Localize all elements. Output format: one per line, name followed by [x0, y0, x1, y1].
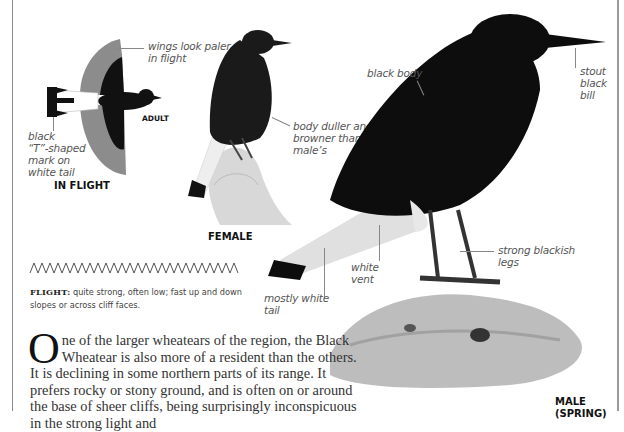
caption-male: MALE (SPRING) [555, 396, 607, 420]
description-text: ne of the larger wheatears of the region… [30, 332, 357, 431]
label-strong-legs: strong blackish legs [498, 244, 575, 268]
label-black-body: black body [367, 67, 422, 79]
leader-line-bill [575, 48, 576, 68]
label-t-shaped-mark: black “T”-shaped mark on white tail [28, 130, 85, 178]
leader-line-wings [116, 48, 144, 49]
page-left-border [12, 0, 13, 411]
caption-in-flight: IN FLIGHT [54, 180, 110, 191]
flight-pattern-zigzag-icon [30, 262, 240, 274]
caption-female: FEMALE [208, 231, 253, 242]
leader-line-tail-t [53, 117, 54, 131]
leader-line-tail [324, 248, 325, 298]
label-stout-black-bill: stout black bill [580, 65, 607, 101]
leader-line-vent [379, 225, 380, 261]
flight-description: FLIGHT: quite strong, often low; fast up… [30, 286, 260, 312]
label-white-vent: white vent [351, 261, 379, 285]
caption-adult: ADULT [142, 114, 169, 123]
flight-heading: FLIGHT: [30, 287, 70, 297]
label-mostly-white-tail: mostly white tail [264, 292, 329, 316]
species-description: One of the larger wheatears of the regio… [30, 332, 360, 432]
drop-cap: O [28, 332, 60, 366]
leader-line-legs [460, 251, 494, 252]
